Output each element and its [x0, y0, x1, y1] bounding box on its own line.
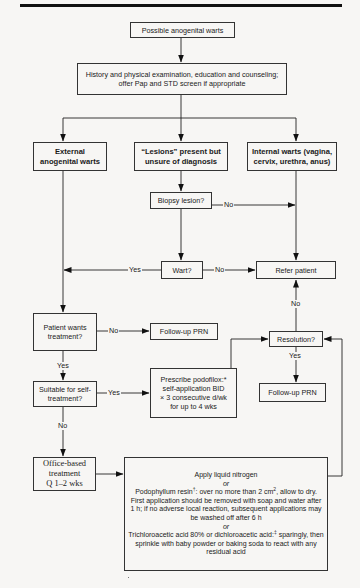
suitable-no-label: No: [57, 422, 68, 430]
scan-speck: [128, 577, 129, 578]
tca-name: Trichloroacetic acid 80% or dichloroacet…: [128, 531, 274, 538]
office-based-treatment-node: Office-based treatment Q 1–2 wks: [33, 457, 96, 491]
or-separator-2: or: [223, 523, 229, 532]
biopsy-no-label: No: [223, 201, 234, 209]
refer-patient-node: Refer patient: [256, 261, 336, 279]
option-podophyllum: Podophyllum resin†: over no more than 2 …: [128, 488, 324, 522]
start-node: Possible anogenital warts: [130, 22, 235, 38]
resolution-no-label: No: [290, 300, 301, 308]
option-trichloroacetic: Trichloroacetic acid 80% or dichloroacet…: [128, 531, 324, 557]
patient-wants-treatment-decision: Patient wants treatment?: [33, 313, 97, 351]
suitable-yes-label: Yes: [107, 389, 121, 397]
wart-yes-label: Yes: [128, 266, 142, 274]
prescribe-line-3: × 3 consecutive d/wk: [160, 393, 227, 402]
lesions-unsure-node: “Lesions” present but unsure of diagnosi…: [134, 142, 228, 171]
or-separator-1: or: [223, 480, 229, 489]
prescribe-line-4: for up to 4 wks: [170, 402, 217, 411]
history-node: History and physical examination, educat…: [77, 63, 287, 95]
double-dagger-mark: ‡: [274, 529, 277, 535]
option-liquid-nitrogen: Apply liquid nitrogen: [194, 471, 257, 480]
external-warts-node: External anogenital warts: [33, 142, 107, 171]
resolution-decision: Resolution?: [269, 331, 323, 347]
podophyllum-name: Podophyllum resin: [135, 488, 193, 495]
suitable-self-treatment-decision: Suitable for self-treatment?: [33, 381, 97, 407]
resolution-yes-label: Yes: [288, 352, 302, 360]
follow-up-node-1: Follow-up PRN: [150, 323, 218, 340]
prescribe-line-1: Prescribe podofilox:*: [161, 375, 227, 384]
wants-yes-label: Yes: [56, 362, 70, 370]
prescribe-line-2: self-application BID: [163, 384, 225, 393]
wants-no-label: No: [108, 327, 119, 335]
office-line-2: treatment: [49, 469, 81, 479]
prescribe-podofilox-node: Prescribe podofilox:* self-application B…: [150, 368, 237, 418]
office-treatment-options-node: Apply liquid nitrogen or Podophyllum res…: [124, 457, 328, 571]
follow-up-node-2: Follow-up PRN: [259, 383, 326, 402]
wart-no-label: No: [214, 266, 225, 274]
biopsy-decision: Biopsy lesion?: [150, 192, 212, 209]
podophyllum-text-a: : over no more than 2 cm: [196, 488, 274, 495]
wart-decision: Wart?: [161, 261, 203, 279]
office-line-1: Office-based: [43, 459, 86, 469]
office-line-3: Q 1–2 wks: [46, 479, 82, 489]
internal-warts-node: Internal warts (vagina, cervix, urethra,…: [247, 142, 337, 171]
